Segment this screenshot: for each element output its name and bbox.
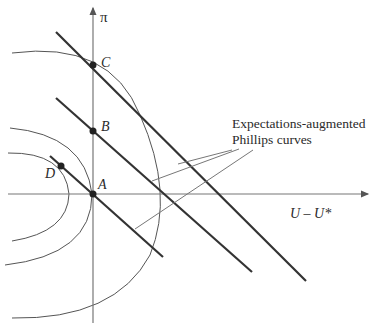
- point-a: [90, 191, 97, 198]
- point-c: [90, 62, 97, 69]
- point-b-label: B: [101, 119, 110, 134]
- indifference-curve-large: [12, 51, 160, 318]
- annotation-line-2: Phillips curves: [232, 132, 312, 147]
- annotation-line-1: Expectations-augmented: [232, 116, 366, 131]
- point-c-label: C: [101, 55, 111, 70]
- point-d-label: D: [44, 166, 55, 181]
- x-axis-label: U – U*: [290, 206, 331, 221]
- point-d: [58, 163, 65, 170]
- indifference-curve-medium: [5, 128, 92, 265]
- annotation-leaders: [135, 149, 253, 229]
- phillips-curve-diagram: π U – U* C B A D Expectations-augmented …: [0, 0, 382, 330]
- point-b: [90, 128, 97, 135]
- phillips-curves: [50, 32, 306, 281]
- y-axis-label: π: [100, 9, 108, 25]
- phillips-curve-b: [56, 98, 252, 272]
- point-a-label: A: [97, 177, 107, 192]
